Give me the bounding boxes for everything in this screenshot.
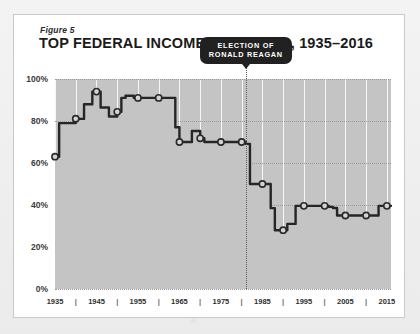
chart-data-point bbox=[280, 227, 286, 233]
chart-data-point bbox=[342, 212, 348, 218]
chart-x-tick-label: 1975 bbox=[213, 297, 230, 306]
chart-data-point bbox=[301, 203, 307, 209]
chart-y-tick-label: 80% bbox=[31, 116, 48, 126]
chart-x-minor-tick: | bbox=[199, 297, 201, 306]
chart-y-tick-label: 0% bbox=[36, 284, 48, 294]
chart-data-point bbox=[114, 109, 120, 115]
chart-data-point bbox=[259, 181, 265, 187]
chart-x-tick-label: 2015 bbox=[379, 297, 396, 306]
chart-x-tick-label: 1935 bbox=[47, 297, 64, 306]
chart-series bbox=[55, 79, 391, 289]
chart-x-minor-tick: | bbox=[116, 297, 118, 306]
chart-data-point bbox=[156, 95, 162, 101]
chart-data-point bbox=[384, 203, 390, 209]
event-marker-line bbox=[246, 59, 247, 289]
chart-x-tick-label: 1945 bbox=[88, 297, 105, 306]
chart-data-point bbox=[52, 154, 58, 160]
chart-data-point bbox=[218, 139, 224, 145]
chart-data-point bbox=[135, 95, 141, 101]
chart-x-tick-label: 2005 bbox=[337, 297, 354, 306]
chart-data-point bbox=[73, 116, 79, 122]
chart-x-tick-label: 1995 bbox=[296, 297, 313, 306]
chart-plot-area: 0%20%40%60%80%100% 193519451955196519751… bbox=[55, 79, 391, 289]
chart-data-point bbox=[176, 139, 182, 145]
chart-x-tick-label: 1985 bbox=[254, 297, 271, 306]
figure-label: Figure 5 bbox=[40, 25, 75, 35]
chart-y-tick-label: 100% bbox=[26, 74, 48, 84]
chart-data-point bbox=[197, 135, 203, 141]
chart-data-point bbox=[363, 212, 369, 218]
chart-x-minor-tick: | bbox=[75, 297, 77, 306]
chart-y-tick-label: 40% bbox=[31, 200, 48, 210]
chart-data-point bbox=[239, 139, 245, 145]
chart-x-minor-tick: | bbox=[241, 297, 243, 306]
chart-y-tick-label: 60% bbox=[31, 158, 48, 168]
chart-x-minor-tick: | bbox=[324, 297, 326, 306]
chart-x-minor-tick: | bbox=[158, 297, 160, 306]
chart-area-path bbox=[55, 92, 391, 289]
event-callout: ELECTION OF RONALD REAGAN bbox=[200, 37, 292, 64]
chart-x-tick-label: 1965 bbox=[171, 297, 188, 306]
callout-line-2: RONALD REAGAN bbox=[209, 50, 283, 59]
chart-data-point bbox=[322, 203, 328, 209]
chart-x-minor-tick: | bbox=[365, 297, 367, 306]
chart-x-tick-label: 1955 bbox=[130, 297, 147, 306]
chart-x-minor-tick: | bbox=[282, 297, 284, 306]
chart-horizontal-gridline bbox=[55, 289, 391, 290]
figure-card: Figure 5 TOP FEDERAL INCOME TAX RATES, 1… bbox=[13, 14, 405, 318]
callout-line-1: ELECTION OF bbox=[209, 41, 283, 50]
chart-data-point bbox=[93, 89, 99, 95]
chart-y-tick-label: 20% bbox=[31, 242, 48, 252]
figure-page: Figure 5 TOP FEDERAL INCOME TAX RATES, 1… bbox=[0, 0, 420, 334]
